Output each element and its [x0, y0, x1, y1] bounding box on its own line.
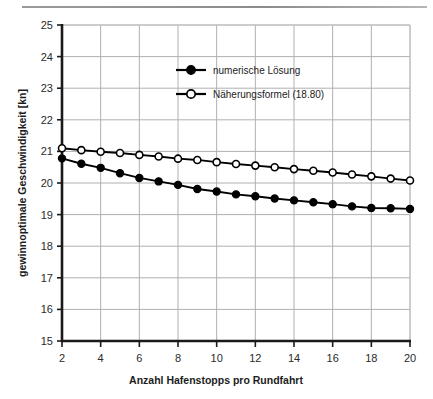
legend-marker-filled-circle-icon [187, 66, 195, 74]
y-tick-label-23: 23 [41, 82, 53, 94]
legend-label-naeherung: Näherungsformel (18.80) [213, 89, 324, 100]
data-point-marker [368, 204, 375, 211]
data-point-marker [116, 170, 123, 177]
x-tick-label-8: 8 [175, 352, 181, 364]
data-point-marker [78, 147, 85, 154]
x-axis-tick-labels: 2468101214161820 [59, 352, 416, 364]
data-point-marker [252, 193, 259, 200]
y-tick-label-16: 16 [41, 303, 53, 315]
data-point-marker [387, 205, 394, 212]
data-point-marker [329, 201, 336, 208]
data-point-marker [97, 164, 104, 171]
data-point-marker [136, 151, 143, 158]
data-point-marker [59, 145, 66, 152]
x-tick-label-10: 10 [211, 352, 223, 364]
x-tick-label-16: 16 [327, 352, 339, 364]
data-point-marker [348, 203, 355, 210]
y-tick-label-20: 20 [41, 177, 53, 189]
chart-legend: numerische Lösung Näherungsformel (18.80… [176, 65, 324, 100]
data-point-marker [58, 155, 65, 162]
data-point-marker [310, 199, 317, 206]
data-point-marker [387, 175, 394, 182]
x-tick-label-20: 20 [404, 352, 416, 364]
data-point-marker [232, 191, 239, 198]
data-point-marker [310, 167, 317, 174]
data-point-marker [271, 164, 278, 171]
data-point-marker [271, 195, 278, 202]
data-point-marker [291, 166, 298, 173]
data-point-marker [349, 171, 356, 178]
y-axis-title: gewinnoptimale Geschwindigkeit [kn] [16, 89, 28, 277]
chart-figure: 1516171819202122232425 2468101214161820 … [0, 0, 433, 399]
x-tick-label-6: 6 [136, 352, 142, 364]
y-tick-label-18: 18 [41, 240, 53, 252]
y-axis-tick-labels: 1516171819202122232425 [41, 19, 53, 347]
x-tick-label-12: 12 [249, 352, 261, 364]
x-axis-title: Anzahl Hafenstopps pro Rundfahrt [129, 374, 303, 386]
y-tick-label-24: 24 [41, 51, 53, 63]
data-point-marker [407, 177, 414, 184]
data-point-marker [213, 188, 220, 195]
data-point-marker [78, 160, 85, 167]
legend-label-numerische: numerische Lösung [213, 65, 300, 76]
series-layer [58, 145, 413, 213]
data-point-marker [252, 162, 259, 169]
data-point-marker [213, 159, 220, 166]
y-tick-label-21: 21 [41, 145, 53, 157]
data-point-marker [406, 205, 413, 212]
data-point-marker [155, 153, 162, 160]
data-point-marker [368, 173, 375, 180]
data-point-marker [97, 148, 104, 155]
y-tick-label-15: 15 [41, 335, 53, 347]
data-point-marker [175, 155, 182, 162]
line-chart: 1516171819202122232425 2468101214161820 … [0, 0, 433, 399]
data-point-marker [290, 197, 297, 204]
data-point-marker [155, 178, 162, 185]
y-tick-label-17: 17 [41, 272, 53, 284]
x-tick-label-14: 14 [288, 352, 300, 364]
data-point-marker [136, 174, 143, 181]
data-point-marker [233, 161, 240, 168]
series-2 [59, 145, 414, 184]
x-tick-label-2: 2 [59, 352, 65, 364]
data-point-marker [194, 156, 201, 163]
data-point-marker [174, 181, 181, 188]
x-tick-label-18: 18 [365, 352, 377, 364]
data-point-marker [329, 169, 336, 176]
data-point-marker [194, 185, 201, 192]
y-tick-label-22: 22 [41, 114, 53, 126]
data-point-marker [117, 149, 124, 156]
legend-marker-open-circle-icon [187, 90, 195, 98]
x-tick-label-4: 4 [98, 352, 104, 364]
y-tick-label-25: 25 [41, 19, 53, 31]
y-tick-label-19: 19 [41, 209, 53, 221]
